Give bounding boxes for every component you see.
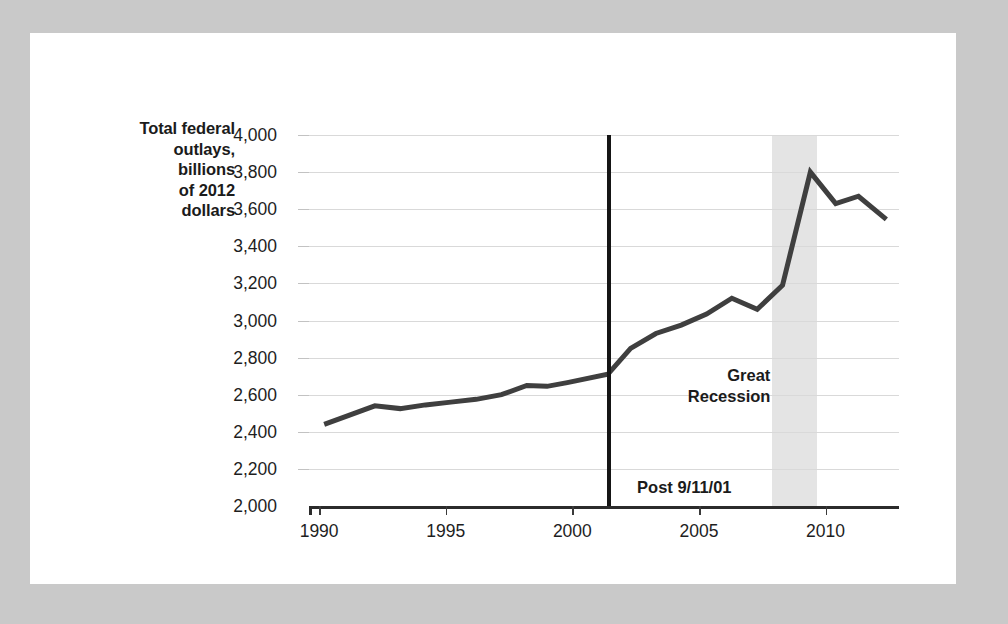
annotation-great-recession-line-1: Great (652, 365, 770, 386)
y-tick-mark (298, 283, 309, 284)
post-911-vertical-rule (607, 135, 611, 506)
annotation-great-recession: GreatRecession (652, 365, 770, 406)
y-tick-label: 3,600 (157, 199, 277, 220)
y-tick-mark (298, 358, 309, 359)
y-tick-mark (298, 432, 309, 433)
y-tick-mark (298, 395, 309, 396)
series-layer (309, 135, 899, 506)
x-tick-mark (319, 506, 321, 515)
annotation-post-911: Post 9/11/01 (637, 477, 731, 498)
series-line-total-federal-outlays (324, 172, 886, 424)
x-tick-label: 2000 (527, 521, 617, 542)
y-tick-mark (298, 469, 309, 470)
y-tick-label: 2,600 (157, 385, 277, 406)
y-tick-label: 3,400 (157, 236, 277, 257)
figure-card: Total federal outlays, billions of 2012 … (30, 33, 956, 584)
x-tick-label: 2010 (781, 521, 871, 542)
x-tick-label: 2005 (654, 521, 744, 542)
y-tick-mark (298, 209, 309, 210)
plot-area: 2,0002,2002,4002,6002,8003,0003,2003,400… (279, 102, 899, 526)
x-tick-mark (446, 506, 448, 515)
x-tick-mark (826, 506, 828, 515)
figure-root: Total federal outlays, billions of 2012 … (0, 0, 1008, 624)
y-tick-label: 2,000 (157, 496, 277, 517)
annotation-post-911-line-1: Post 9/11/01 (637, 477, 731, 498)
y-tick-label: 2,800 (157, 348, 277, 369)
x-tick-label: 1990 (274, 521, 364, 542)
x-tick-label: 1995 (401, 521, 491, 542)
y-tick-label: 2,400 (157, 422, 277, 443)
y-tick-mark (298, 321, 309, 322)
x-tick-mark (699, 506, 701, 515)
y-tick-label: 4,000 (157, 125, 277, 146)
y-tick-label: 3,000 (157, 311, 277, 332)
y-tick-mark (298, 135, 309, 136)
x-tick-mark (572, 506, 574, 515)
y-axis-stub (309, 506, 312, 515)
y-tick-label: 2,200 (157, 459, 277, 480)
y-tick-label: 3,200 (157, 273, 277, 294)
plot-inner: 2,0002,2002,4002,6002,8003,0003,2003,400… (309, 135, 899, 506)
x-axis-line (309, 506, 899, 509)
y-tick-mark (298, 172, 309, 173)
y-tick-label: 3,800 (157, 162, 277, 183)
annotation-great-recession-line-2: Recession (652, 386, 770, 407)
y-tick-mark (298, 246, 309, 247)
